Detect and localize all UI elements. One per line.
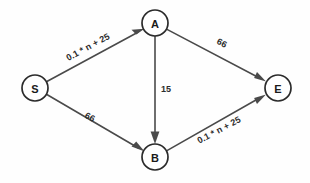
edge-line-a-e xyxy=(167,29,260,78)
node-a[interactable]: A xyxy=(142,10,168,36)
node-label-s: S xyxy=(31,83,39,95)
edge-line-b-e xyxy=(167,98,260,151)
node-b[interactable]: B xyxy=(142,144,168,170)
edge-label-s-a: 0.1 * n + 25 xyxy=(65,31,112,63)
edge-group-a-e xyxy=(167,29,267,81)
node-label-a: A xyxy=(151,18,159,30)
node-label-b: B xyxy=(151,152,159,164)
edge-group-s-b xyxy=(46,94,144,151)
edge-label-a-b: 15 xyxy=(161,84,171,94)
diagram-canvas: 0.1 * n + 25 66 15 66 0.1 * n + 25 S A B… xyxy=(0,0,310,183)
edge-label-a-e: 66 xyxy=(215,36,229,50)
edge-group-b-e xyxy=(167,94,267,150)
edge-group-a-b xyxy=(151,36,160,144)
node-label-e: E xyxy=(274,83,282,95)
arrowhead-a-b xyxy=(151,132,160,144)
node-e[interactable]: E xyxy=(265,75,291,101)
node-s[interactable]: S xyxy=(22,75,48,101)
arrowhead-b-e xyxy=(254,94,266,104)
arrowhead-a-e xyxy=(254,72,266,82)
graph-svg: 0.1 * n + 25 66 15 66 0.1 * n + 25 S A B… xyxy=(0,0,310,183)
arrowhead-s-b xyxy=(132,142,145,152)
arrowhead-s-a xyxy=(132,29,145,35)
